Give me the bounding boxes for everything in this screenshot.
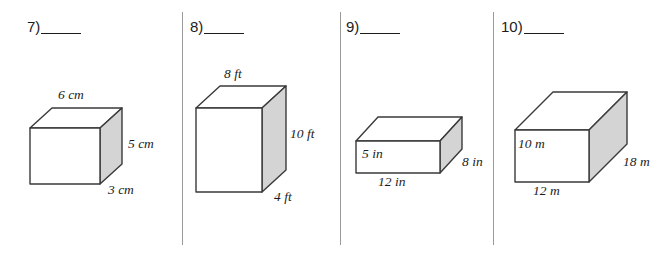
problem-9: 9) 5 in 12 in 8 in xyxy=(340,0,493,257)
prism-9-width-label: 12 in xyxy=(378,174,405,190)
prism-10-width-label: 12 m xyxy=(533,183,560,199)
prism-8-top-label: 8 ft xyxy=(224,66,242,82)
prism-10: 10 m 12 m 18 m xyxy=(511,88,639,192)
prism-7-depth-label: 3 cm xyxy=(108,182,134,198)
problem-7-answer-blank[interactable] xyxy=(41,33,81,34)
problem-8: 8) 8 ft 10 ft 4 ft xyxy=(182,0,340,257)
problem-9-label: 9) xyxy=(346,18,400,35)
problem-10-number: 10) xyxy=(501,18,523,35)
prism-8-height-label: 10 ft xyxy=(290,126,314,142)
prism-9-depth-label: 8 in xyxy=(462,154,483,170)
prism-9: 5 in 12 in 8 in xyxy=(352,113,474,185)
problem-10: 10) 10 m 12 m 18 m xyxy=(493,0,668,257)
prism-10-depth-label: 18 m xyxy=(623,154,650,170)
prism-10-height-label: 10 m xyxy=(518,136,545,152)
prism-8-front-face xyxy=(196,108,262,192)
prism-7: 6 cm 5 cm 3 cm xyxy=(22,104,132,196)
problem-9-answer-blank[interactable] xyxy=(360,33,400,34)
problem-10-answer-blank[interactable] xyxy=(524,33,564,34)
problem-7-label: 7) xyxy=(27,18,81,35)
problem-7: 7) 6 cm 5 cm 3 cm xyxy=(0,0,182,257)
prism-7-front-face xyxy=(30,128,100,184)
problem-8-number: 8) xyxy=(190,18,203,35)
prism-7-top-label: 6 cm xyxy=(58,87,84,103)
problem-7-number: 7) xyxy=(27,18,40,35)
prism-8: 8 ft 10 ft 4 ft xyxy=(190,82,300,204)
prism-9-height-label: 5 in xyxy=(362,146,383,162)
worksheet-sheet: 7) 6 cm 5 cm 3 cm 8) xyxy=(0,0,668,257)
prism-7-height-label: 5 cm xyxy=(128,136,154,152)
problem-8-label: 8) xyxy=(190,18,244,35)
problem-9-number: 9) xyxy=(346,18,359,35)
prism-8-depth-label: 4 ft xyxy=(274,189,292,205)
problem-10-label: 10) xyxy=(501,18,564,35)
problem-8-answer-blank[interactable] xyxy=(204,33,244,34)
